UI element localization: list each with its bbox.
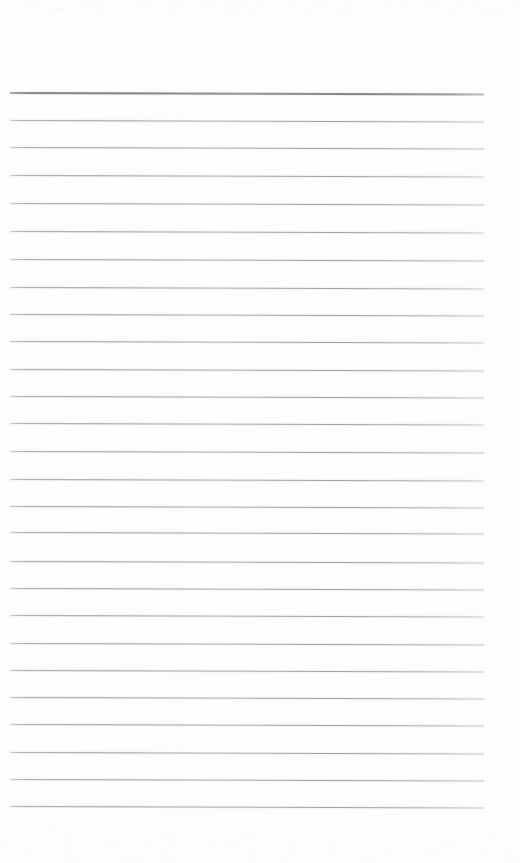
- ruled-line: [10, 231, 484, 234]
- header-rule: [10, 92, 484, 96]
- ruled-line: [10, 806, 484, 809]
- ruled-line: [10, 203, 484, 206]
- ruled-line: [10, 643, 484, 646]
- ruled-line: [10, 287, 484, 290]
- ruled-line: [10, 147, 484, 150]
- ruled-line: [10, 697, 484, 700]
- ruled-line: [10, 588, 484, 591]
- ruled-line: [10, 175, 484, 178]
- ruled-line: [10, 670, 484, 673]
- scan-noise-overlay: [0, 0, 520, 863]
- bottom-scan-artifact-band: [0, 811, 520, 863]
- paper-tone-overlay: [0, 0, 520, 863]
- ruled-line: [10, 396, 484, 399]
- ruled-line: [10, 369, 484, 372]
- ruled-line: [10, 561, 484, 564]
- ruled-line: [10, 120, 484, 123]
- ruled-line: [10, 779, 484, 782]
- ruled-line: [10, 724, 484, 727]
- ruled-line: [10, 423, 484, 426]
- ruled-line: [10, 506, 484, 509]
- ruled-line: [10, 532, 484, 535]
- top-scan-artifact-band: [0, 0, 520, 14]
- ruled-line: [10, 341, 484, 344]
- ruled-line: [10, 314, 484, 317]
- ruled-line: [10, 451, 484, 454]
- ruled-line-layer: [0, 0, 520, 863]
- scanned-page: [0, 0, 520, 863]
- ruled-line: [10, 752, 484, 755]
- ruled-line: [10, 615, 484, 618]
- ruled-line: [10, 479, 484, 482]
- ruled-line: [10, 259, 484, 262]
